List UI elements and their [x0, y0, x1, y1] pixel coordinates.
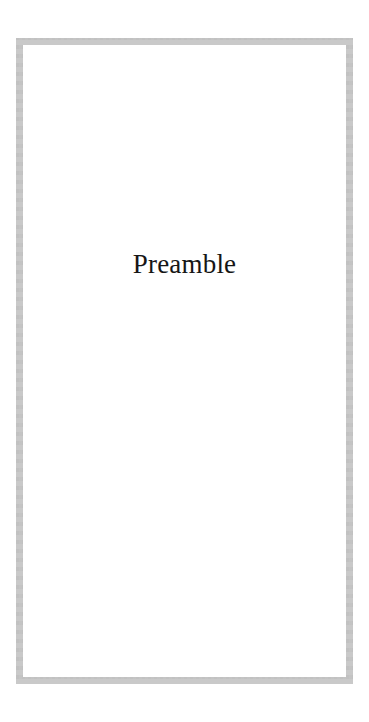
page-title: Preamble — [133, 251, 237, 278]
page-border-frame: Preamble — [16, 38, 353, 684]
page-content-area: Preamble — [23, 45, 346, 677]
part-title-block: Preamble — [23, 251, 346, 278]
scanned-page-surface: Preamble — [0, 0, 369, 722]
